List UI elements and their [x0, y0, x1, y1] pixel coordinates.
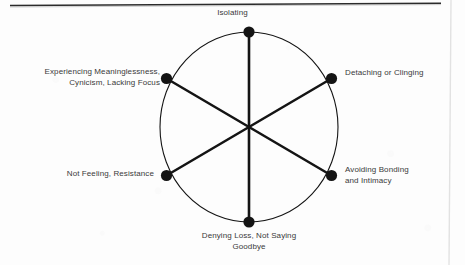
node-isolating[interactable]: [243, 26, 254, 37]
label-isolating: Isolating: [0, 8, 465, 19]
node-detaching[interactable]: [326, 73, 337, 84]
right-page-edge: [449, 0, 451, 265]
label-avoiding: Avoiding Bonding and Intimacy: [345, 165, 463, 186]
node-not-feeling[interactable]: [161, 170, 172, 181]
label-detaching: Detaching or Clinging: [345, 68, 465, 79]
scanned-diagram-page: Isolating Detaching or Clinging Avoiding…: [0, 0, 465, 265]
node-avoiding[interactable]: [326, 170, 337, 181]
hexagonal-wheel-diagram: [0, 0, 465, 265]
node-denying[interactable]: [243, 216, 254, 227]
label-not-feeling: Not Feeling, Resistance: [0, 169, 154, 180]
node-meaninglessness[interactable]: [161, 73, 172, 84]
label-denying: Denying Loss, Not Saying Goodbye: [160, 231, 338, 252]
label-meaninglessness: Experiencing Meaninglessness, Cynicism, …: [0, 67, 160, 88]
